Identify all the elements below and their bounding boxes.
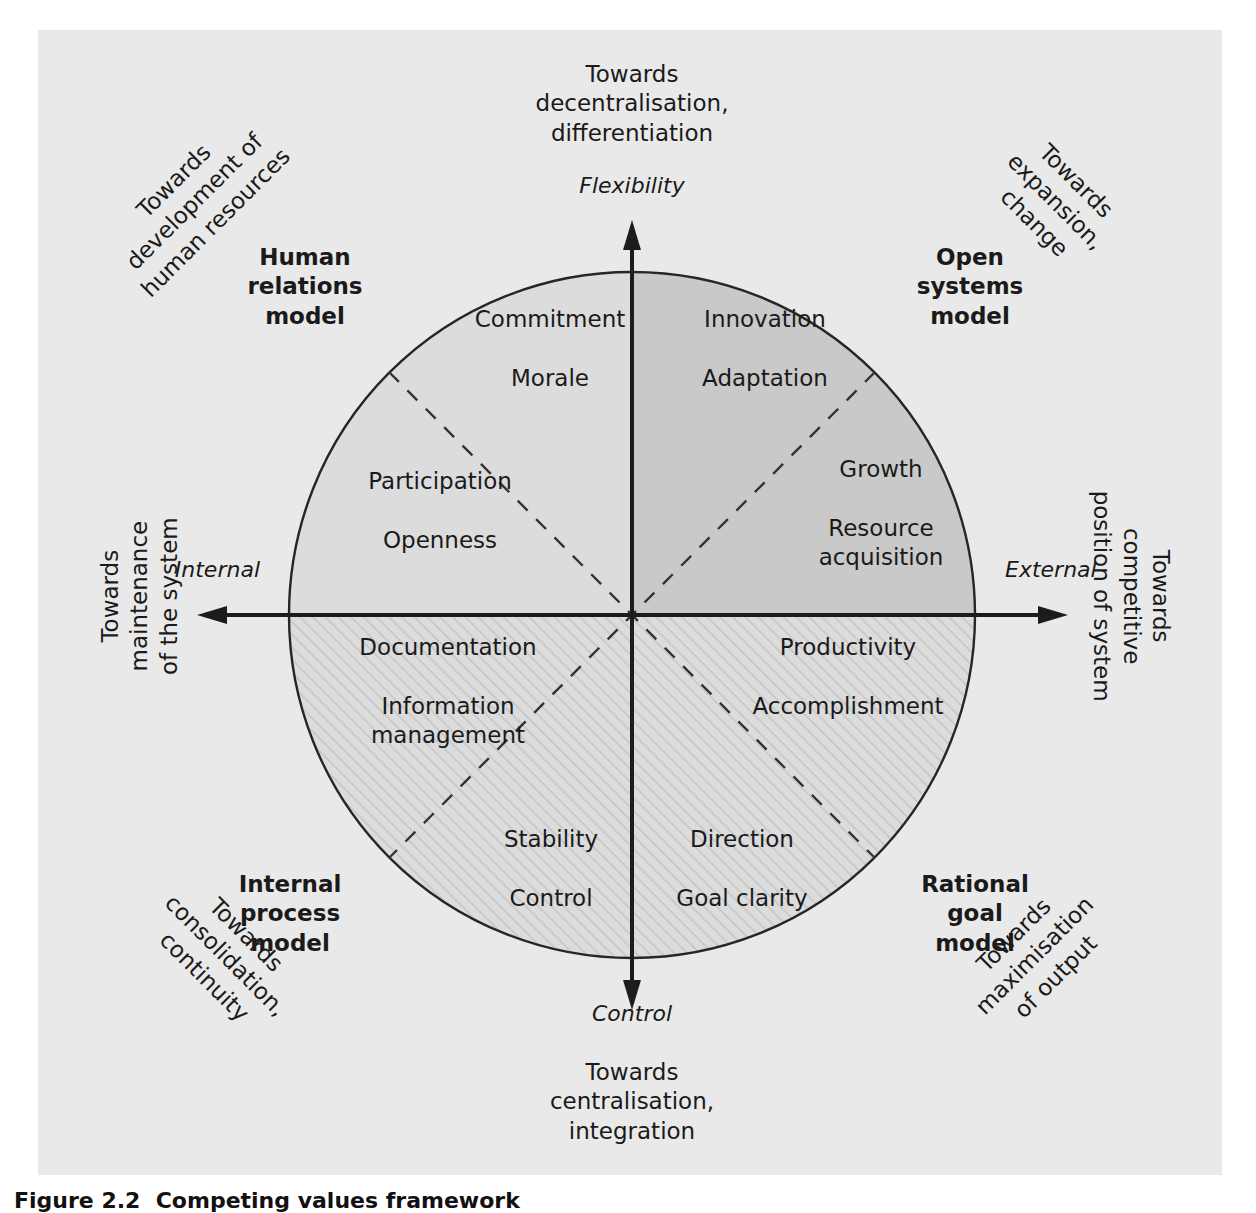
outer-label-bottom: Towards centralisation, integration	[472, 1058, 792, 1146]
arrow-right-icon	[1038, 606, 1068, 624]
values-human-relations-outer: Commitment Morale	[440, 305, 660, 393]
model-label-internal-process: Internal process model	[175, 870, 405, 958]
figure-caption: Figure 2.2 Competing values framework	[14, 1188, 714, 1213]
values-rational-goal-outer: Productivity Accomplishment	[710, 633, 986, 721]
model-label-rational-goal: Rational goal model	[860, 870, 1090, 958]
values-internal-process-inner: Stability Control	[451, 825, 651, 913]
values-open-systems-outer: Innovation Adaptation	[655, 305, 875, 393]
values-open-systems-inner: Growth Resource acquisition	[776, 455, 986, 573]
axis-label-control: Control	[562, 1000, 702, 1028]
model-label-open-systems: Open systems model	[855, 243, 1085, 331]
model-label-human-relations: Human relations model	[190, 243, 420, 331]
axis-label-flexibility: Flexibility	[562, 172, 702, 200]
outer-label-right: Towards competitive position of system	[1087, 481, 1175, 711]
arrow-left-icon	[197, 606, 227, 624]
values-human-relations-inner: Participation Openness	[330, 467, 550, 555]
values-internal-process-outer: Documentation Information management	[324, 633, 572, 751]
outer-label-top: Towards decentralisation, differentiatio…	[472, 60, 792, 148]
values-rational-goal-inner: Direction Goal clarity	[632, 825, 852, 913]
arrow-up-icon	[623, 220, 641, 250]
outer-label-left: Towards maintenance of the system	[96, 481, 184, 711]
